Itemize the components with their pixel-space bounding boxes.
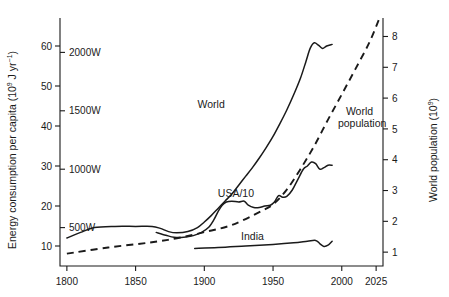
y-axis-title-end: ) bbox=[6, 51, 18, 55]
x-tick-label: 2025 bbox=[365, 276, 388, 287]
series-group bbox=[67, 20, 379, 254]
y2-axis-title-end: ) bbox=[427, 98, 439, 102]
series-line-world-population bbox=[67, 20, 379, 254]
y2-tick-label: 6 bbox=[392, 93, 398, 104]
x-tick-label: 2000 bbox=[331, 276, 354, 287]
x-tick-label: 1950 bbox=[262, 276, 285, 287]
y-tick-label: 10 bbox=[41, 241, 53, 252]
curve-labels-group: WorldUSA/10IndiaWorldpopulation bbox=[198, 98, 387, 242]
energy-population-chart: Energy consumption per capita (109 J yr−… bbox=[0, 0, 449, 297]
x-tick-label: 1850 bbox=[124, 276, 147, 287]
y2-tick-label: 5 bbox=[392, 124, 398, 135]
series-label-line-2: population bbox=[338, 117, 387, 129]
y-axis-title-mid: J yr bbox=[6, 62, 18, 82]
y-tick-label: 50 bbox=[41, 81, 53, 92]
series-line-world bbox=[67, 43, 332, 238]
y-power-label: 1000W bbox=[69, 164, 101, 175]
y-tick-label: 20 bbox=[41, 201, 53, 212]
axes-group: 180018501900195020002025102030405060500W… bbox=[41, 18, 398, 287]
series-label-india: India bbox=[241, 230, 264, 242]
y-axis-title-sup2: −1 bbox=[6, 54, 13, 62]
y2-axis-title: World population (109) bbox=[427, 98, 439, 202]
series-label-world-population: Worldpopulation bbox=[338, 105, 387, 129]
y-power-label: 1500W bbox=[69, 105, 101, 116]
y-tick-label: 30 bbox=[41, 161, 53, 172]
y-tick-label: 40 bbox=[41, 121, 53, 132]
y2-tick-label: 8 bbox=[392, 31, 398, 42]
y2-tick-label: 3 bbox=[392, 185, 398, 196]
y-power-label: 2000W bbox=[69, 47, 101, 58]
y-axis-title-main: Energy consumption per capita (10 bbox=[6, 86, 18, 249]
series-label-line-1: World bbox=[346, 105, 373, 117]
series-label-world: World bbox=[198, 98, 225, 110]
x-tick-label: 1900 bbox=[193, 276, 216, 287]
series-line-usa-10 bbox=[156, 162, 332, 238]
y2-tick-label: 4 bbox=[392, 154, 398, 165]
y-axis-title: Energy consumption per capita (109 J yr−… bbox=[6, 51, 18, 249]
y2-axis-title-main: World population (10 bbox=[427, 105, 439, 202]
x-tick-label: 1800 bbox=[56, 276, 79, 287]
chart-svg: Energy consumption per capita (109 J yr−… bbox=[0, 0, 449, 297]
y2-tick-label: 2 bbox=[392, 216, 398, 227]
y2-tick-label: 7 bbox=[392, 62, 398, 73]
series-label-usa-10: USA/10 bbox=[218, 187, 254, 199]
y-tick-label: 60 bbox=[41, 41, 53, 52]
y2-tick-label: 1 bbox=[392, 247, 398, 258]
